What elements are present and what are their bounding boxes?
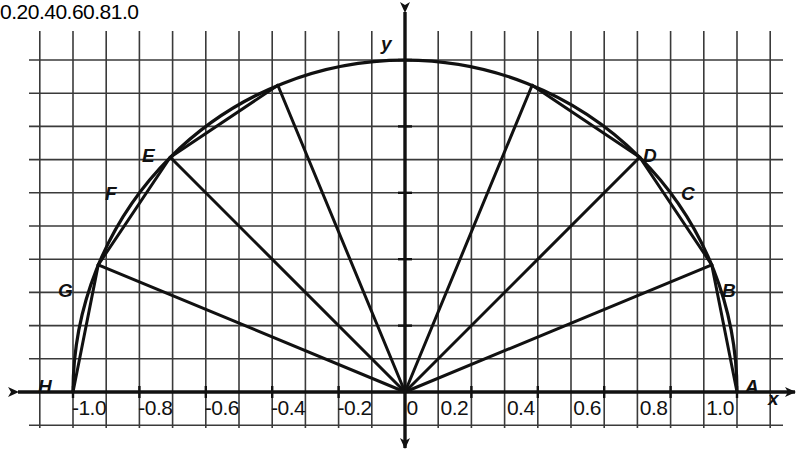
chord-line xyxy=(532,85,640,157)
point-label-g: G xyxy=(58,280,73,302)
point-label-d: D xyxy=(643,145,657,167)
x-tick-label: 0.4 xyxy=(507,396,535,420)
x-tick-label: -1.0 xyxy=(72,396,106,420)
x-tick-label: -0.8 xyxy=(138,396,172,420)
point-label-e: E xyxy=(142,145,155,167)
chord-line xyxy=(170,85,278,157)
x-tick-label: -0.6 xyxy=(205,396,239,420)
math-graph-figure: ABCDEFGH -1.0-0.8-0.6-0.4-0.20.20.40.60.… xyxy=(0,0,805,453)
point-label-b: B xyxy=(722,280,736,302)
chord-line xyxy=(73,265,98,392)
x-tick-label: 0.2 xyxy=(441,396,469,420)
x-tick-label: 1.0 xyxy=(706,396,734,420)
origin-tick-label: 0 xyxy=(406,396,417,420)
x-tick-label: -0.4 xyxy=(271,396,305,420)
x-axis-label: x xyxy=(768,388,779,410)
point-label-c: C xyxy=(681,183,695,205)
x-tick-label: -0.2 xyxy=(338,396,372,420)
point-label-a: A xyxy=(745,376,759,398)
point-label-h: H xyxy=(38,376,52,398)
chord-line xyxy=(640,157,712,265)
plot-canvas xyxy=(0,0,805,453)
chord-line xyxy=(98,157,170,265)
y-axis-label: y xyxy=(381,33,392,55)
x-tick-label: 0.6 xyxy=(573,396,601,420)
axis-lines xyxy=(18,12,795,448)
point-label-f: F xyxy=(105,183,117,205)
x-tick-label: 0.8 xyxy=(640,396,668,420)
